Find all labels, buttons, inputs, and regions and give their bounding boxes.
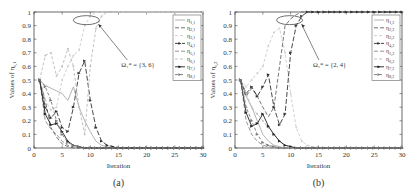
series-marker (328, 11, 331, 14)
series-marker (378, 147, 381, 150)
series-marker (334, 11, 337, 14)
series-marker (128, 147, 131, 150)
series-line (241, 80, 402, 148)
series-marker (306, 147, 309, 150)
y-tick-label: 1 (229, 9, 233, 17)
series-marker (395, 11, 398, 14)
series-marker (156, 147, 159, 150)
series-marker (361, 11, 364, 14)
series-marker (83, 147, 86, 150)
series-marker (367, 147, 370, 150)
panel-b: 00.10.20.30.40.50.60.70.80.9105101520253… (209, 0, 418, 192)
x-tick-label: 0 (32, 151, 36, 159)
y-tick-label: 0.1 (22, 131, 31, 139)
series-marker (395, 147, 398, 150)
series-marker (378, 11, 381, 14)
series-line (40, 80, 203, 148)
series-marker (384, 147, 387, 150)
series-marker (295, 147, 298, 150)
series-marker (339, 11, 342, 14)
y-tick-label: 0.6 (22, 63, 31, 71)
annotation-text: Ω₂* = {2, 4} (313, 61, 346, 69)
y-axis-label: Values of ηi,1 (8, 61, 18, 98)
x-tick-label: 25 (171, 151, 179, 159)
y-tick-label: 0.6 (223, 63, 232, 71)
x-tick-label: 15 (315, 151, 323, 159)
y-tick-label: 0.1 (223, 131, 232, 139)
series-line (40, 80, 203, 148)
series-marker (389, 11, 392, 14)
y-tick-label: 0.3 (22, 104, 31, 112)
x-tick-label: 10 (287, 151, 295, 159)
y-tick-label: 0.4 (223, 90, 232, 98)
series-marker (356, 147, 359, 150)
series-marker (334, 147, 337, 150)
y-tick-label: 0.7 (223, 49, 232, 57)
x-tick-label: 0 (233, 151, 237, 159)
series-marker (162, 147, 165, 150)
series-line (241, 80, 402, 148)
line-chart-a: 00.10.20.30.40.50.60.70.80.9105101520253… (0, 0, 209, 192)
y-tick-label: 0 (28, 145, 32, 153)
series-marker (139, 147, 142, 150)
annotation-ellipse (73, 16, 99, 25)
figure: 00.10.20.30.40.50.60.70.80.9105101520253… (0, 0, 418, 192)
series-line (40, 80, 203, 148)
series-line (241, 80, 402, 148)
series-line (40, 80, 203, 148)
x-tick-label: 10 (87, 151, 95, 159)
series-marker (49, 117, 52, 120)
series-marker (123, 147, 126, 150)
x-tick-label: 5 (261, 151, 265, 159)
annotation-text: Ω₁* = {3, 6} (121, 61, 154, 69)
x-axis-label: Iteration (107, 162, 131, 170)
series-marker (350, 147, 353, 150)
y-tick-label: 0.8 (22, 36, 31, 44)
x-tick-label: 15 (115, 151, 123, 159)
series-marker (356, 11, 359, 14)
series-marker (190, 147, 193, 150)
panel-a: 00.10.20.30.40.50.60.70.80.9105101520253… (0, 0, 209, 192)
series-marker (350, 11, 353, 14)
line-chart-b: 00.10.20.30.40.50.60.70.80.9105101520253… (209, 0, 418, 192)
series-marker (196, 147, 199, 150)
series-marker (300, 147, 303, 150)
x-tick-label: 5 (60, 151, 64, 159)
y-axis-label: Values of ηi,2 (209, 61, 219, 98)
series-marker (267, 144, 270, 147)
x-tick-label: 30 (200, 151, 208, 159)
y-tick-label: 0.9 (22, 22, 31, 30)
y-tick-label: 0.5 (223, 77, 232, 85)
series-marker (311, 11, 314, 14)
y-tick-label: 0.7 (22, 49, 31, 57)
annotation-ellipse (277, 16, 303, 25)
x-tick-label: 20 (343, 151, 351, 159)
series-line (40, 80, 203, 148)
y-tick-label: 0.2 (22, 117, 31, 125)
series-marker (185, 147, 188, 150)
series-marker (179, 147, 182, 150)
series-marker (100, 147, 103, 150)
series-marker (339, 147, 342, 150)
series-marker (328, 147, 331, 150)
y-tick-label: 0.8 (223, 36, 232, 44)
x-tick-label: 25 (371, 151, 379, 159)
series-marker (168, 147, 171, 150)
y-tick-label: 0.3 (223, 104, 232, 112)
series-marker (361, 147, 364, 150)
y-tick-label: 1 (28, 9, 32, 17)
series-marker (134, 147, 137, 150)
series-marker (389, 147, 392, 150)
x-axis-label: Iteration (307, 162, 331, 170)
y-tick-label: 0.4 (22, 90, 31, 98)
series-marker (367, 11, 370, 14)
series-marker (322, 11, 325, 14)
series-marker (261, 141, 264, 144)
series-marker (151, 147, 154, 150)
series-marker (284, 144, 287, 147)
series-marker (49, 123, 52, 126)
panel-label: (b) (313, 177, 325, 189)
y-tick-label: 0 (229, 145, 233, 153)
x-tick-label: 30 (399, 151, 407, 159)
series-line (241, 80, 402, 148)
